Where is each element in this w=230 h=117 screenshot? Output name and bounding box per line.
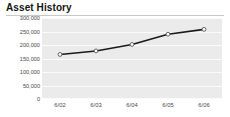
x-tick-label: 6/06	[187, 101, 221, 109]
data-point-marker[interactable]	[58, 53, 62, 57]
data-point-marker[interactable]	[166, 32, 170, 36]
y-axis-labels: 050,000100,000150,000200,000250,000300,0…	[2, 16, 40, 117]
x-tick-label: 6/04	[115, 101, 149, 109]
page-title: Asset History	[6, 2, 72, 13]
x-tick-label: 6/02	[43, 101, 77, 109]
data-point-marker[interactable]	[94, 49, 98, 53]
asset-history-widget: Asset History 050,000100,000150,000200,0…	[0, 0, 230, 117]
asset-history-chart: 050,000100,000150,000200,000250,000300,0…	[0, 16, 230, 117]
y-tick-label: 0	[4, 96, 40, 102]
y-tick-label: 250,000	[4, 29, 40, 35]
y-tick-label: 50,000	[4, 83, 40, 89]
x-tick-label: 6/05	[151, 101, 185, 109]
data-point-marker[interactable]	[202, 27, 206, 31]
plot-area	[42, 18, 222, 99]
x-tick-label: 6/03	[79, 101, 113, 109]
y-tick-label: 100,000	[4, 69, 40, 75]
y-tick-label: 300,000	[4, 15, 40, 21]
line-series	[42, 18, 222, 99]
series-line	[60, 29, 204, 54]
data-point-marker[interactable]	[130, 43, 134, 47]
y-tick-label: 200,000	[4, 42, 40, 48]
y-tick-label: 150,000	[4, 56, 40, 62]
x-axis-labels: 6/026/036/046/056/06	[42, 101, 222, 115]
